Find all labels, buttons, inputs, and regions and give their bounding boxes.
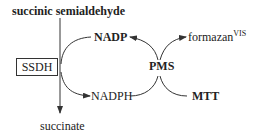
mtt-label: MTT bbox=[192, 90, 219, 102]
pms-to-formazan-arrow bbox=[160, 37, 186, 60]
nadph-to-pms-curve bbox=[130, 76, 158, 96]
formazan-label: formazanVIS bbox=[188, 31, 246, 43]
nadp-consumed-curve bbox=[61, 37, 91, 64]
nadph-label: NADPH bbox=[91, 90, 132, 102]
nadph-produced-arrow bbox=[61, 72, 90, 96]
product-label: succinate bbox=[40, 120, 85, 132]
mtt-to-pms-curve bbox=[160, 76, 187, 96]
enzyme-box: SSDH bbox=[16, 58, 58, 76]
formazan-superscript: VIS bbox=[233, 29, 246, 38]
nadp-label: NADP bbox=[94, 31, 127, 43]
formazan-text: formazan bbox=[188, 30, 233, 44]
pms-label: PMS bbox=[149, 60, 174, 72]
enzyme-label: SSDH bbox=[22, 60, 53, 75]
substrate-label: succinic semialdehyde bbox=[12, 5, 125, 17]
pms-to-nadp-arrow bbox=[130, 37, 158, 60]
